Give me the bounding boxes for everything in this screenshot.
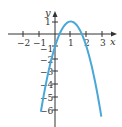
y-tick-label: 1 <box>45 17 51 27</box>
x-tick-label: 1 <box>68 38 74 48</box>
y-tick-label: −1 <box>40 44 53 54</box>
y-axis-arrow-icon <box>53 11 58 17</box>
x-tick-label: 3 <box>100 38 106 48</box>
x-axis-label: x <box>110 36 116 47</box>
y-axis-label: y <box>44 7 51 18</box>
x-tick-label: −2 <box>17 38 30 48</box>
parabola-graph: −2 −1 1 2 3 1 −1 −2 −3 −4 −5 −6 x y <box>0 0 122 127</box>
